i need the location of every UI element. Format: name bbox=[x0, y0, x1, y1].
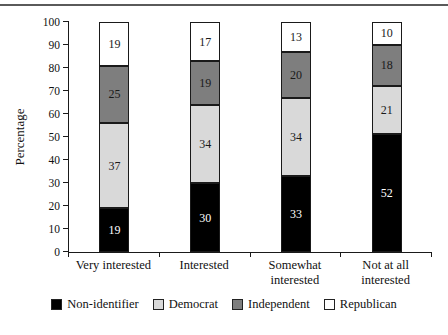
y-tick-label: 80 bbox=[23, 61, 60, 75]
y-tick-mark bbox=[63, 44, 69, 45]
legend: Non-identifierDemocratIndependentRepubli… bbox=[0, 297, 448, 312]
legend-swatch-republican bbox=[324, 299, 335, 310]
y-tick-mark bbox=[63, 21, 69, 22]
y-tick-label: 0 bbox=[23, 245, 60, 259]
legend-item-republican: Republican bbox=[324, 297, 397, 312]
x-axis-label-interested: Interested bbox=[179, 258, 228, 273]
segment-republican: 10 bbox=[372, 22, 402, 45]
segment-value-label: 30 bbox=[199, 212, 211, 224]
segment-independent: 20 bbox=[281, 52, 311, 98]
x-tick-mark bbox=[159, 252, 160, 257]
y-tick-label: 20 bbox=[23, 199, 60, 213]
legend-item-democrat: Democrat bbox=[153, 297, 218, 312]
segment-non-identifier: 30 bbox=[190, 183, 220, 252]
segment-republican: 13 bbox=[281, 22, 311, 52]
y-tick-mark bbox=[63, 113, 69, 114]
segment-value-label: 19 bbox=[108, 224, 120, 236]
x-axis-label-somewhat-interested: Somewhat interested bbox=[268, 258, 321, 288]
segment-non-identifier: 33 bbox=[281, 176, 311, 252]
x-axis-label-very-interested: Very interested bbox=[76, 258, 151, 273]
segment-value-label: 21 bbox=[381, 104, 393, 116]
segment-value-label: 17 bbox=[199, 36, 211, 48]
legend-swatch-non-identifier bbox=[51, 299, 62, 310]
y-tick-label: 50 bbox=[23, 130, 60, 144]
y-tick-label: 90 bbox=[23, 38, 60, 52]
stacked-bar-chart-figure: Percentage 01020304050607080901001937251… bbox=[0, 0, 448, 335]
legend-label: Republican bbox=[340, 297, 397, 312]
y-tick-mark bbox=[63, 205, 69, 206]
bar-interested: 30341917 bbox=[190, 22, 220, 252]
legend-label: Non-identifier bbox=[67, 297, 139, 312]
bar-very-interested: 19372519 bbox=[99, 22, 129, 252]
top-rule bbox=[0, 4, 448, 6]
x-tick-mark bbox=[250, 252, 251, 257]
segment-value-label: 19 bbox=[199, 77, 211, 89]
y-tick-mark bbox=[63, 90, 69, 91]
segment-democrat: 34 bbox=[190, 105, 220, 183]
y-tick-mark bbox=[63, 159, 69, 160]
legend-item-independent: Independent bbox=[232, 297, 310, 312]
segment-value-label: 19 bbox=[108, 38, 120, 50]
plot-area: 0102030405060708090100193725193034191733… bbox=[68, 22, 432, 253]
legend-item-non-identifier: Non-identifier bbox=[51, 297, 139, 312]
segment-value-label: 13 bbox=[290, 31, 302, 43]
segment-republican: 19 bbox=[99, 22, 129, 66]
y-tick-mark bbox=[63, 136, 69, 137]
y-tick-label: 100 bbox=[23, 15, 60, 29]
segment-democrat: 34 bbox=[281, 98, 311, 176]
x-tick-mark bbox=[340, 252, 341, 257]
x-tick-mark bbox=[431, 252, 432, 257]
segment-value-label: 34 bbox=[199, 138, 211, 150]
segment-democrat: 37 bbox=[99, 123, 129, 208]
y-tick-mark bbox=[63, 67, 69, 68]
y-tick-label: 40 bbox=[23, 153, 60, 167]
segment-independent: 19 bbox=[190, 61, 220, 105]
segment-non-identifier: 19 bbox=[99, 208, 129, 252]
segment-value-label: 37 bbox=[108, 160, 120, 172]
segment-independent: 25 bbox=[99, 66, 129, 124]
y-tick-mark bbox=[63, 182, 69, 183]
y-tick-label: 30 bbox=[23, 176, 60, 190]
y-tick-label: 60 bbox=[23, 107, 60, 121]
legend-label: Democrat bbox=[169, 297, 218, 312]
legend-swatch-democrat bbox=[153, 299, 164, 310]
bar-not-at-all-interested: 52211810 bbox=[372, 22, 402, 252]
segment-democrat: 21 bbox=[372, 86, 402, 134]
y-tick-label: 70 bbox=[23, 84, 60, 98]
x-tick-mark bbox=[68, 252, 69, 257]
segment-value-label: 20 bbox=[290, 69, 302, 81]
x-axis-labels: Very interestedInterestedSomewhat intere… bbox=[68, 258, 431, 294]
segment-value-label: 18 bbox=[381, 59, 393, 71]
segment-independent: 18 bbox=[372, 45, 402, 86]
segment-value-label: 10 bbox=[381, 27, 393, 39]
segment-value-label: 33 bbox=[290, 208, 302, 220]
bar-somewhat-interested: 33342013 bbox=[281, 22, 311, 252]
segment-value-label: 34 bbox=[290, 131, 302, 143]
legend-swatch-independent bbox=[232, 299, 243, 310]
segment-value-label: 25 bbox=[108, 88, 120, 100]
x-axis-label-not-at-all-interested: Not at all interested bbox=[361, 258, 410, 288]
segment-republican: 17 bbox=[190, 22, 220, 61]
y-tick-label: 10 bbox=[23, 222, 60, 236]
y-tick-mark bbox=[63, 228, 69, 229]
segment-value-label: 52 bbox=[381, 187, 393, 199]
legend-label: Independent bbox=[248, 297, 310, 312]
segment-non-identifier: 52 bbox=[372, 134, 402, 252]
